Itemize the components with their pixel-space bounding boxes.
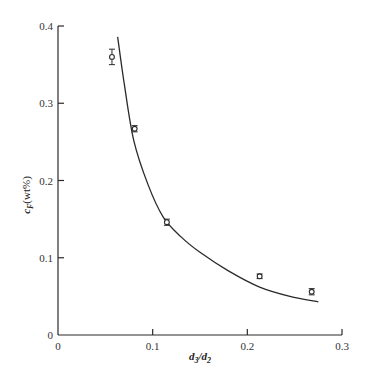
x-tick-label: 0.2	[240, 340, 254, 352]
circle-marker-icon	[257, 274, 262, 279]
x-tick-label: 0	[55, 340, 61, 352]
data-point	[257, 274, 263, 279]
x-axis-label: d3/d2	[189, 350, 211, 365]
y-tick-label: 0.4	[39, 20, 53, 32]
circle-marker-icon	[132, 126, 137, 131]
chart-canvas: 00.10.20.30.4 00.10.20.3 d3/d2 cF(wt%)	[0, 0, 365, 380]
y-tick-label: 0.2	[39, 175, 53, 187]
data-point	[132, 126, 138, 132]
x-tick-label: 0.3	[335, 340, 349, 352]
y-axis-label: cF(wt%)	[20, 176, 35, 214]
y-tick-label: 0.3	[39, 97, 53, 109]
model-curve	[118, 37, 319, 302]
axes	[58, 26, 342, 335]
y-tick-label: 0.1	[39, 252, 53, 264]
x-ticks: 00.10.20.3	[55, 329, 349, 352]
circle-marker-icon	[110, 55, 115, 60]
y-ticks: 00.10.20.30.4	[39, 20, 64, 341]
circle-marker-icon	[309, 289, 314, 294]
circle-marker-icon	[164, 220, 169, 225]
y-tick-label: 0	[48, 329, 54, 341]
x-tick-label: 0.1	[146, 340, 160, 352]
data-point	[109, 49, 115, 64]
data-point	[309, 289, 315, 295]
data-markers	[109, 49, 315, 295]
